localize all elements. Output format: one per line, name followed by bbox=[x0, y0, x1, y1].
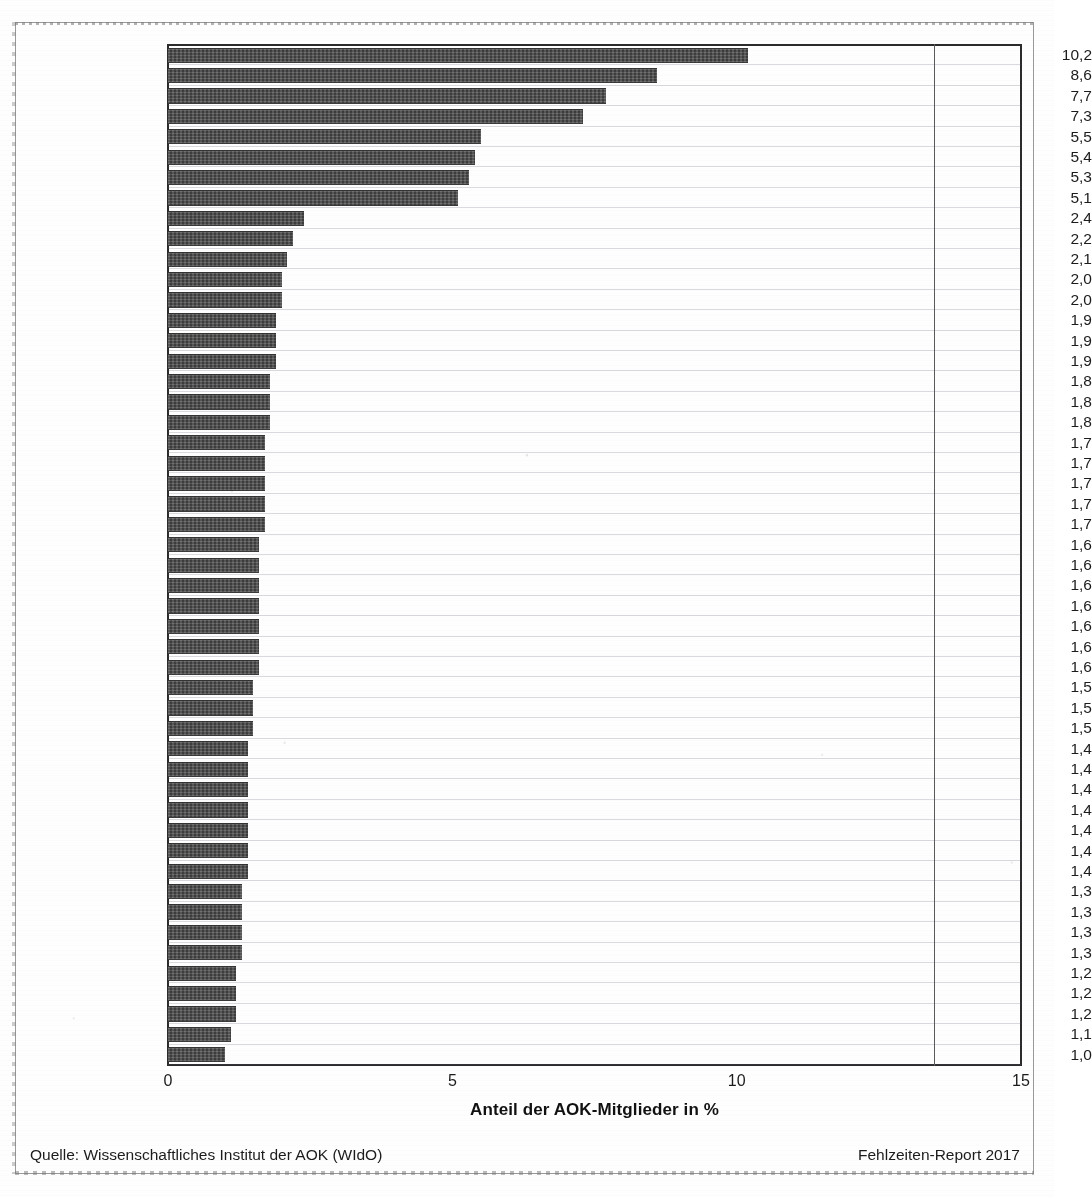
footer: Quelle: Wissenschaftliches Institut der … bbox=[30, 1146, 1020, 1164]
value-label: 1,3 bbox=[928, 881, 1092, 901]
bar bbox=[168, 904, 242, 919]
bar bbox=[168, 578, 259, 593]
chart-row: Erfurt7,3 bbox=[168, 106, 1021, 126]
value-label: 1,8 bbox=[928, 392, 1092, 412]
value-label: 2,1 bbox=[928, 249, 1092, 269]
gridline bbox=[168, 1064, 1021, 1065]
bar bbox=[168, 88, 606, 103]
value-label: 5,3 bbox=[928, 167, 1092, 187]
value-label: 1,6 bbox=[928, 637, 1092, 657]
chart-row: Freiburg1,6 bbox=[168, 616, 1021, 636]
value-label: 1,2 bbox=[928, 1004, 1092, 1024]
bar bbox=[168, 925, 242, 940]
chart-row: Ludwigshafen1,4 bbox=[168, 841, 1021, 861]
bar bbox=[168, 558, 259, 573]
bar bbox=[168, 802, 248, 817]
chart-row: Bielefeld2,1 bbox=[168, 249, 1021, 269]
chart-row: Karlsruhe1,7 bbox=[168, 453, 1021, 473]
value-label: 7,3 bbox=[928, 106, 1092, 126]
chart-row: Saarbrücken1,2 bbox=[168, 1004, 1021, 1024]
value-label: 1,8 bbox=[928, 412, 1092, 432]
chart-row: Lübeck2,0 bbox=[168, 290, 1021, 310]
value-label: 1,9 bbox=[928, 331, 1092, 351]
value-label: 1,4 bbox=[928, 739, 1092, 759]
bar bbox=[168, 415, 270, 430]
bar bbox=[168, 721, 253, 736]
bar bbox=[168, 354, 276, 369]
bar bbox=[168, 496, 265, 511]
value-label: 5,4 bbox=[928, 147, 1092, 167]
chart-row: Aachen1,4 bbox=[168, 861, 1021, 881]
bar bbox=[168, 741, 248, 756]
chart-row: Bonn1,3 bbox=[168, 902, 1021, 922]
chart-row: Wuppertal1,6 bbox=[168, 637, 1021, 657]
bar bbox=[168, 598, 259, 613]
bar bbox=[168, 170, 469, 185]
x-tick-label: 15 bbox=[991, 1072, 1051, 1090]
value-label: 5,1 bbox=[928, 188, 1092, 208]
chart-row: Hamburg1,8 bbox=[168, 371, 1021, 391]
bar bbox=[168, 48, 748, 63]
chart-row: Dresden10,2 bbox=[168, 45, 1021, 65]
chart-row: Hagen1,2 bbox=[168, 963, 1021, 983]
value-label: 1,5 bbox=[928, 677, 1092, 697]
value-label: 1,2 bbox=[928, 963, 1092, 983]
value-label: 1,1 bbox=[928, 1024, 1092, 1044]
scan-edge-top bbox=[15, 22, 1034, 25]
chart-row: Braunschweig2,4 bbox=[168, 208, 1021, 228]
value-label: 1,6 bbox=[928, 616, 1092, 636]
chart-row: Krefeld1,4 bbox=[168, 759, 1021, 779]
chart-row: Oberhausen1,5 bbox=[168, 698, 1021, 718]
value-label: 1,5 bbox=[928, 698, 1092, 718]
chart-row: München1,4 bbox=[168, 739, 1021, 759]
bar bbox=[168, 435, 265, 450]
chart-row: Kassel1,6 bbox=[168, 657, 1021, 677]
value-label: 1,9 bbox=[928, 351, 1092, 371]
value-label: 1,7 bbox=[928, 494, 1092, 514]
chart-row: Leipzig7,7 bbox=[168, 86, 1021, 106]
bar bbox=[168, 700, 253, 715]
bar bbox=[168, 986, 236, 1001]
chart-row: Nürnberg1,8 bbox=[168, 392, 1021, 412]
chart-row: Mainz1,3 bbox=[168, 881, 1021, 901]
chart-row: Kiel1,7 bbox=[168, 494, 1021, 514]
bar bbox=[168, 660, 259, 675]
value-label: 1,4 bbox=[928, 841, 1092, 861]
chart-row: Mannheim1,5 bbox=[168, 677, 1021, 697]
bar bbox=[168, 639, 259, 654]
bar bbox=[168, 537, 259, 552]
value-label: 1,6 bbox=[928, 657, 1092, 677]
chart-row: Bremen1,6 bbox=[168, 535, 1021, 555]
bar bbox=[168, 1047, 225, 1062]
value-label: 2,4 bbox=[928, 208, 1092, 228]
value-label: 1,4 bbox=[928, 820, 1092, 840]
chart-row: Leverkusen1,8 bbox=[168, 412, 1021, 432]
chart-row: Hannover1,9 bbox=[168, 331, 1021, 351]
chart-row: Frankfurt1,6 bbox=[168, 596, 1021, 616]
bar bbox=[168, 252, 287, 267]
chart-row: Mönchengladbach1,3 bbox=[168, 943, 1021, 963]
bar bbox=[168, 150, 475, 165]
chart-row: Solingen1,9 bbox=[168, 310, 1021, 330]
bar bbox=[168, 231, 293, 246]
chart-row: Dortmund1,4 bbox=[168, 779, 1021, 799]
value-label: 1,4 bbox=[928, 759, 1092, 779]
chart-row: Düsseldorf1,4 bbox=[168, 800, 1021, 820]
bar bbox=[168, 476, 265, 491]
chart-row: Mülheim1,4 bbox=[168, 820, 1021, 840]
bar bbox=[168, 823, 248, 838]
value-label: 7,7 bbox=[928, 86, 1092, 106]
report-note: Fehlzeiten-Report 2017 bbox=[858, 1146, 1020, 1164]
x-tick-label: 0 bbox=[138, 1072, 198, 1090]
chart-row: Augsburg1,5 bbox=[168, 718, 1021, 738]
value-label: 1,6 bbox=[928, 596, 1092, 616]
value-label: 5,5 bbox=[928, 127, 1092, 147]
bar-chart: Dresden10,2Chemnitz8,6Leipzig7,7Erfurt7,… bbox=[168, 45, 1021, 1065]
chart-row: Gelsenkirchen1,0 bbox=[168, 1045, 1021, 1065]
value-label: 1,6 bbox=[928, 535, 1092, 555]
bar bbox=[168, 1027, 231, 1042]
value-label: 1,2 bbox=[928, 983, 1092, 1003]
value-label: 2,0 bbox=[928, 290, 1092, 310]
chart-row: Hamm1,6 bbox=[168, 555, 1021, 575]
bar bbox=[168, 945, 242, 960]
